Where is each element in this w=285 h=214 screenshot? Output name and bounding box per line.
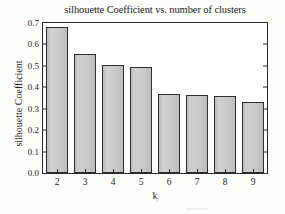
bar-slot — [155, 23, 183, 173]
y-axis-tick-label: 0.5 — [28, 61, 43, 71]
x-axis-tick-mark — [197, 169, 198, 173]
y-axis-label: silhouette Coefficient — [13, 28, 24, 180]
scan-speckle — [186, 208, 208, 210]
x-axis-tick-mark — [169, 169, 170, 173]
chart-title: silhouette Coefficient vs. number of clu… — [42, 4, 268, 15]
x-axis-tick-label: 5 — [139, 177, 144, 187]
y-axis-tick-mark — [43, 108, 47, 109]
x-axis-tick-mark — [113, 169, 114, 173]
bar[interactable] — [130, 67, 152, 173]
bar-slot — [99, 23, 127, 173]
x-axis-tick-label: 9 — [251, 177, 256, 187]
y-axis-tick-mark — [43, 87, 47, 88]
bar-slot — [183, 23, 211, 173]
y-axis-tick-mark — [43, 130, 47, 131]
y-axis-tick-label: 0.4 — [28, 82, 43, 92]
y-axis-tick-mark — [43, 65, 47, 66]
bars-layer — [43, 23, 267, 173]
y-axis-tick-label: 0.7 — [28, 18, 43, 28]
y-axis-tick-label: 0.0 — [28, 168, 43, 178]
y-axis-tick-mark — [43, 44, 47, 45]
x-axis-tick-mark — [141, 169, 142, 173]
x-axis-tick-label: 7 — [195, 177, 200, 187]
bar-slot — [127, 23, 155, 173]
bar-slot — [211, 23, 239, 173]
x-axis-label: k — [42, 190, 268, 201]
bar[interactable] — [158, 94, 180, 174]
bar[interactable] — [46, 27, 68, 173]
y-axis-tick-mark — [263, 44, 267, 45]
x-axis-tick-label: 2 — [55, 177, 60, 187]
y-axis-tick-label: 0.1 — [28, 147, 43, 157]
bar[interactable] — [214, 96, 236, 173]
bar-slot — [43, 23, 71, 173]
bar[interactable] — [102, 65, 124, 173]
bar[interactable] — [74, 54, 96, 173]
bar[interactable] — [242, 102, 264, 173]
y-axis-tick-mark — [263, 151, 267, 152]
y-axis-tick-mark — [263, 108, 267, 109]
x-axis-tick-mark — [225, 169, 226, 173]
x-axis-tick-label: 3 — [83, 177, 88, 187]
x-axis-tick-label: 4 — [111, 177, 116, 187]
bar-slot — [71, 23, 99, 173]
y-axis-tick-label: 0.2 — [28, 125, 43, 135]
y-axis-tick-mark — [43, 151, 47, 152]
bar[interactable] — [186, 95, 208, 173]
plot-area: 0.00.10.20.30.40.50.60.723456789 — [42, 22, 268, 174]
y-axis-tick-mark — [263, 65, 267, 66]
y-axis-tick-label: 0.3 — [28, 104, 43, 114]
scan-speckle — [156, 198, 159, 202]
x-axis-tick-label: 8 — [223, 177, 228, 187]
x-axis-tick-mark — [253, 169, 254, 173]
chart-figure: silhouette Coefficient vs. number of clu… — [0, 0, 285, 214]
x-axis-tick-mark — [85, 169, 86, 173]
x-axis-tick-label: 6 — [167, 177, 172, 187]
y-axis-tick-mark — [263, 130, 267, 131]
y-axis-tick-mark — [263, 87, 267, 88]
y-axis-tick-label: 0.6 — [28, 39, 43, 49]
x-axis-tick-mark — [57, 169, 58, 173]
